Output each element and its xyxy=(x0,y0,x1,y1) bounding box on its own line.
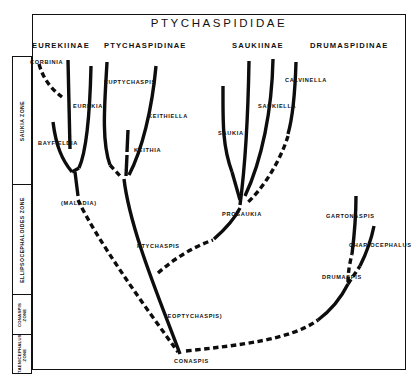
genus-label: GARTONASPIS xyxy=(326,213,375,219)
genus-label: EUPTYCHASPIS xyxy=(104,79,156,85)
zone-cell: ELLIPSOCEPHALOIDES ZONE xyxy=(13,185,31,295)
genus-label: (MALADIA) xyxy=(61,200,97,206)
genus-label: DRUMASPIS xyxy=(322,274,362,280)
genus-label: SAUKIA xyxy=(218,130,244,136)
subfamily-header: PTYCHASPIDINAE xyxy=(104,41,187,50)
genus-label: EUREKIA xyxy=(73,103,103,109)
zone-label: SAUKIA ZONE xyxy=(19,100,25,140)
zone-cell: TAENICEPHALUS ZONE xyxy=(13,335,31,375)
page-title: PTYCHASPIDIDAE xyxy=(32,17,406,29)
biostratigraphic-zone-column: SAUKIA ZONEELLIPSOCEPHALOIDES ZONECONASP… xyxy=(12,56,32,374)
figure-root: PTYCHASPIDIDAE EUREKIINAEPTYCHASPIDINAES… xyxy=(0,0,418,382)
subfamily-header: SAUKIINAE xyxy=(232,41,284,50)
genus-label: BAYFIELDIA xyxy=(38,140,78,146)
zone-label: TAENICEPHALUS ZONE xyxy=(17,337,27,373)
zone-cell: CONASPIS ZONE xyxy=(13,295,31,335)
genus-label: SAUKIELLA xyxy=(258,103,296,109)
zone-label: CONASPIS ZONE xyxy=(17,297,27,333)
genus-label: (EOPTYCHASPIS) xyxy=(165,313,222,319)
genus-label: CHARIOCEPHALUS xyxy=(349,242,412,248)
genus-label: CALVINELLA xyxy=(285,77,327,83)
subfamily-header: EUREKIINAE xyxy=(32,41,90,50)
genus-label: KEITHIELLA xyxy=(148,113,188,119)
subfamily-header: DRUMASPIDINAE xyxy=(310,41,388,50)
genus-label: PTYCHASPIS xyxy=(137,243,180,249)
genus-label: KEITHIA xyxy=(134,147,161,153)
zone-label: ELLIPSOCEPHALOIDES ZONE xyxy=(19,197,25,283)
zone-cell: SAUKIA ZONE xyxy=(13,57,31,185)
genus-label: CORBINIA xyxy=(30,59,63,65)
genus-label: CONASPIS xyxy=(174,358,209,364)
genus-label: PROSAUKIA xyxy=(222,211,262,217)
